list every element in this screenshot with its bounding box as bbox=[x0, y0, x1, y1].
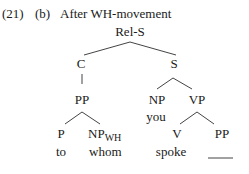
node-rel-s: Rel-S bbox=[115, 25, 145, 39]
node-vp: VP bbox=[189, 93, 206, 107]
node-pp: PP bbox=[75, 93, 89, 107]
node-pp-2: PP bbox=[215, 127, 229, 141]
node-np: NP bbox=[149, 93, 166, 107]
node-v: V bbox=[172, 127, 181, 141]
leaf-to: to bbox=[56, 145, 66, 159]
node-np-wh: NPWH bbox=[88, 127, 121, 145]
wh-subscript: WH bbox=[105, 132, 122, 143]
np-wh-label: NP bbox=[88, 126, 105, 141]
leaf-spoke: spoke bbox=[156, 145, 186, 159]
leaf-whom: whom bbox=[89, 145, 122, 159]
node-c: C bbox=[77, 57, 86, 71]
example-sublabel: (b) bbox=[35, 7, 50, 21]
example-number: (21) bbox=[2, 7, 24, 21]
node-s: S bbox=[170, 57, 177, 71]
leaf-you: you bbox=[146, 110, 166, 124]
example-title: After WH-movement bbox=[60, 7, 171, 21]
node-p: P bbox=[57, 127, 64, 141]
